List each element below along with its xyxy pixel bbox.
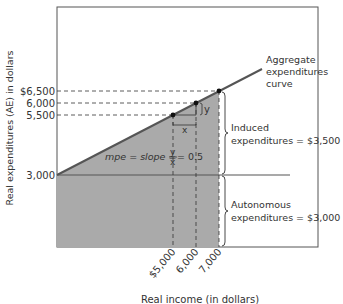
delta-y-label: y (204, 104, 210, 115)
delta-x-label: x (182, 125, 188, 135)
svg-text:Induced: Induced (231, 122, 269, 133)
y-tick: 3,000 (26, 170, 55, 181)
point-7000 (217, 89, 222, 94)
x-tick: $5,000 (147, 246, 178, 280)
y-axis-label: Real expenditures (AE) in dollars (4, 50, 15, 205)
y-tick: 6,000 (26, 98, 55, 109)
svg-text:expenditures = $3,000: expenditures = $3,000 (231, 212, 340, 223)
svg-text:expenditures: expenditures (266, 66, 328, 77)
y-tick: 5,500 (26, 110, 55, 121)
svg-text:expenditures = $3,500: expenditures = $3,500 (231, 135, 340, 146)
y-tick: $6,500 (20, 86, 55, 97)
svg-text:Aggregate: Aggregate (266, 54, 316, 65)
svg-text:y: y (170, 147, 176, 157)
svg-text:mpe = slope =: mpe = slope = (105, 151, 176, 162)
y-tick-labels: $6,500 6,000 5,500 3,000 (20, 86, 55, 181)
svg-text:x: x (170, 157, 176, 167)
svg-text:= 0.5: = 0.5 (177, 151, 203, 162)
aggregate-expenditures-chart: x y $6,500 6,000 5,500 3,000 Real expend… (0, 0, 343, 304)
svg-text:Autonomous: Autonomous (231, 199, 291, 210)
point-5000 (171, 113, 176, 118)
x-axis-label: Real income (in dollars) (141, 294, 259, 304)
x-tick: 6,000 (174, 246, 201, 275)
svg-text:curve: curve (266, 78, 293, 89)
point-6000 (194, 101, 199, 106)
x-tick-labels: $5,000 6,000 7,000 (147, 246, 224, 280)
x-tick: 7,000 (197, 246, 224, 275)
